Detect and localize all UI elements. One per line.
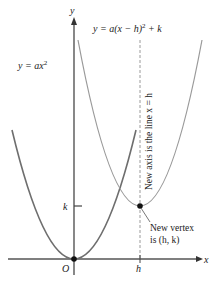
vertex-annotation-line2: is (h, k) bbox=[150, 235, 179, 246]
shifted-equation-label: y = a(x − h)2 + k bbox=[92, 22, 162, 35]
original-equation-exponent: 2 bbox=[44, 59, 48, 67]
y-axis-label: y bbox=[69, 5, 75, 16]
original-equation-label: y = ax2 bbox=[17, 59, 48, 71]
origin-label: O bbox=[62, 263, 69, 274]
y-axis-arrow-icon bbox=[71, 17, 77, 25]
x-axis-label: x bbox=[203, 254, 209, 265]
parabola-diagram: y x O h k y = ax2 y = a(x − h)2 + k New … bbox=[0, 0, 212, 283]
vertex-leader-line bbox=[141, 208, 150, 222]
new-axis-annotation: New axis is the line x = h bbox=[144, 93, 154, 190]
origin-point bbox=[71, 256, 77, 262]
k-tick-label: k bbox=[63, 201, 68, 212]
h-tick-label: h bbox=[136, 263, 141, 274]
shifted-equation-suffix: + k bbox=[146, 23, 163, 34]
x-axis-arrow-icon bbox=[196, 256, 203, 262]
original-equation-text: y = ax bbox=[17, 60, 44, 71]
vertex-annotation-line1: New vertex bbox=[150, 223, 194, 233]
vertex-point bbox=[137, 203, 143, 209]
shifted-equation-prefix: y = a(x − h) bbox=[92, 23, 143, 35]
